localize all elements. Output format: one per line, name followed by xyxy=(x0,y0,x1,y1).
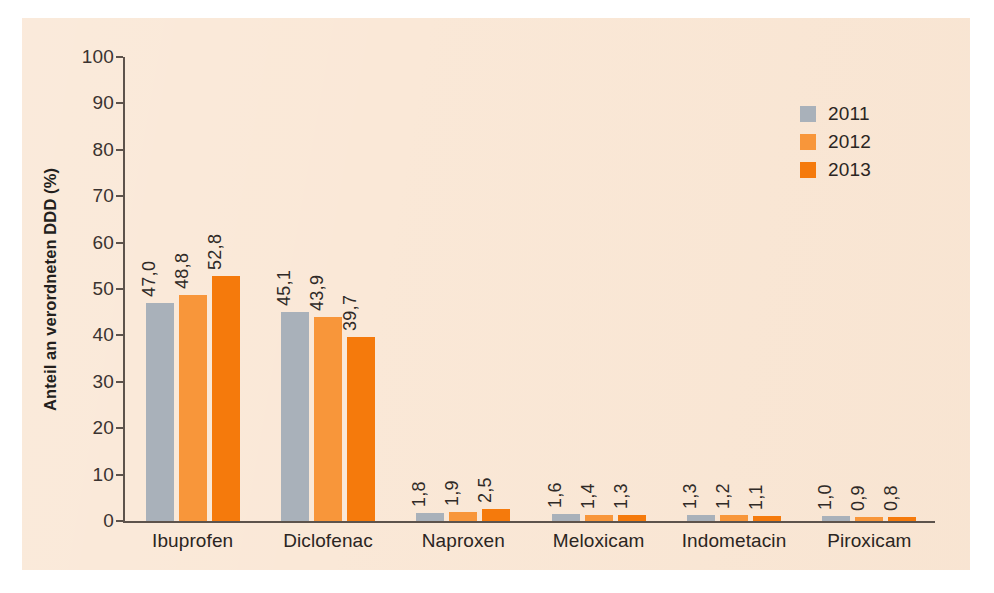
bar-value-label: 43,9 xyxy=(307,275,328,311)
bar-value-label: 1,4 xyxy=(578,483,599,509)
bar[interactable]: 1,0 xyxy=(822,516,850,521)
bar-group: 47,048,852,8 xyxy=(146,57,240,521)
bar-value-label: 1,8 xyxy=(409,481,430,507)
bar[interactable]: 52,8 xyxy=(212,276,240,521)
y-axis-tick-label: 50 xyxy=(92,278,114,300)
bar-group: 1,81,92,5 xyxy=(416,57,510,521)
y-axis-title-text: Anteil an verordneten DDD (%) xyxy=(42,167,61,410)
bar[interactable]: 43,9 xyxy=(314,317,342,521)
bar-value-label: 39,7 xyxy=(340,295,361,331)
y-axis-tick-label: 0 xyxy=(103,510,114,532)
legend-item[interactable]: 2013 xyxy=(800,156,871,184)
bar-value-label: 0,9 xyxy=(848,485,869,511)
y-axis-tick-mark xyxy=(116,242,123,244)
bar-value-label: 1,3 xyxy=(611,483,632,509)
legend-label: 2012 xyxy=(828,131,871,153)
legend-swatch-icon xyxy=(800,106,816,122)
bar-group: 1,61,41,3 xyxy=(552,57,646,521)
bar-value-label: 52,8 xyxy=(205,234,226,270)
bar-value-label: 1,6 xyxy=(545,482,566,508)
legend-item[interactable]: 2011 xyxy=(800,100,871,128)
legend-item[interactable]: 2012 xyxy=(800,128,871,156)
bar[interactable]: 48,8 xyxy=(179,295,207,521)
y-axis-tick-label: 30 xyxy=(92,371,114,393)
bar-value-label: 1,2 xyxy=(713,484,734,510)
y-axis-tick-label: 10 xyxy=(92,464,114,486)
bar-value-label: 45,1 xyxy=(274,270,295,306)
bar[interactable]: 1,3 xyxy=(687,515,715,521)
y-axis-tick-mark xyxy=(116,381,123,383)
bar-value-label: 1,9 xyxy=(442,480,463,506)
y-axis-tick-mark xyxy=(116,56,123,58)
y-axis-line xyxy=(123,57,125,521)
x-axis-category-label: Meloxicam xyxy=(553,530,645,552)
bar-value-label: 1,3 xyxy=(680,483,701,509)
bar[interactable]: 47,0 xyxy=(146,303,174,521)
bar[interactable]: 1,2 xyxy=(720,515,748,521)
bar[interactable]: 1,9 xyxy=(449,512,477,521)
bar[interactable]: 1,8 xyxy=(416,513,444,521)
legend-swatch-icon xyxy=(800,162,816,178)
chart-legend: 201120122013 xyxy=(800,100,871,184)
y-axis-tick-label: 80 xyxy=(92,139,114,161)
bar[interactable]: 0,8 xyxy=(888,517,916,521)
legend-swatch-icon xyxy=(800,134,816,150)
x-axis-category-label: Indometacin xyxy=(682,530,787,552)
y-axis-tick-mark xyxy=(116,427,123,429)
x-axis-category-label: Ibuprofen xyxy=(152,530,233,552)
y-axis-tick-mark xyxy=(116,288,123,290)
bar-value-label: 48,8 xyxy=(172,252,193,288)
bar-group: 45,143,939,7 xyxy=(281,57,375,521)
bar-value-label: 1,0 xyxy=(815,484,836,510)
bar-value-label: 47,0 xyxy=(139,261,160,297)
bar[interactable]: 1,4 xyxy=(585,515,613,521)
chart-figure: Anteil an verordneten DDD (%) 0102030405… xyxy=(0,0,994,593)
y-axis-tick-mark xyxy=(116,334,123,336)
bar[interactable]: 0,9 xyxy=(855,517,883,521)
bar-value-label: 0,8 xyxy=(881,485,902,511)
y-axis-tick-mark xyxy=(116,195,123,197)
bar[interactable]: 1,3 xyxy=(618,515,646,521)
y-axis-title: Anteil an verordneten DDD (%) xyxy=(38,57,64,521)
y-axis-tick-mark xyxy=(116,520,123,522)
legend-label: 2013 xyxy=(828,159,871,181)
y-axis-tick-mark xyxy=(116,102,123,104)
bar[interactable]: 1,1 xyxy=(753,516,781,521)
bar[interactable]: 45,1 xyxy=(281,312,309,521)
bar[interactable]: 2,5 xyxy=(482,509,510,521)
x-axis-line xyxy=(123,521,935,523)
bar-group: 1,31,21,1 xyxy=(687,57,781,521)
bar-value-label: 1,1 xyxy=(746,484,767,510)
y-axis-tick-mark xyxy=(116,149,123,151)
x-axis-category-label: Diclofenac xyxy=(283,530,373,552)
legend-label: 2011 xyxy=(828,103,870,125)
bar[interactable]: 1,6 xyxy=(552,514,580,521)
y-axis-tick-mark xyxy=(116,474,123,476)
y-axis-tick-label: 60 xyxy=(92,232,114,254)
y-axis-tick-label: 20 xyxy=(92,417,114,439)
y-axis-tick-label: 100 xyxy=(82,46,114,68)
bar[interactable]: 39,7 xyxy=(347,337,375,521)
x-axis-category-label: Piroxicam xyxy=(827,530,911,552)
y-axis-tick-label: 40 xyxy=(92,324,114,346)
y-axis-tick-label: 90 xyxy=(92,92,114,114)
x-axis-category-label: Naproxen xyxy=(422,530,505,552)
bar-value-label: 2,5 xyxy=(475,477,496,503)
y-axis-tick-label: 70 xyxy=(92,185,114,207)
